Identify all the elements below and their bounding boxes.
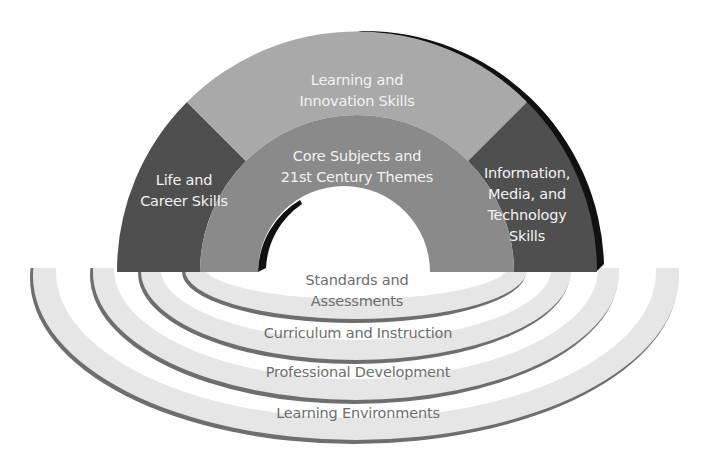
label-line: Career Skills	[128, 191, 240, 212]
label-core-subjects: Core Subjects and 21st Century Themes	[267, 146, 447, 188]
label-line: Curriculum and Instruction	[240, 323, 476, 344]
label-line: Assessments	[282, 291, 432, 312]
label-professional-development: Professional Development	[240, 362, 476, 383]
label-learning-innovation: Learning and Innovation Skills	[287, 70, 427, 112]
label-line: Media, and	[472, 184, 582, 205]
label-line: Learning and	[287, 70, 427, 91]
label-learning-environments: Learning Environments	[240, 403, 476, 424]
label-line: Skills	[472, 226, 582, 247]
label-line: Innovation Skills	[287, 91, 427, 112]
label-line: Life and	[128, 170, 240, 191]
label-line: Information,	[472, 163, 582, 184]
label-line: Learning Environments	[240, 403, 476, 424]
label-line: Professional Development	[240, 362, 476, 383]
label-line: Technology	[472, 205, 582, 226]
label-curriculum-instruction: Curriculum and Instruction	[240, 323, 476, 344]
label-line: Core Subjects and	[267, 146, 447, 167]
label-info-media-tech: Information, Media, and Technology Skill…	[472, 163, 582, 247]
label-line: 21st Century Themes	[267, 167, 447, 188]
label-line: Standards and	[282, 270, 432, 291]
label-standards-assessments: Standards and Assessments	[282, 270, 432, 312]
label-life-career: Life and Career Skills	[128, 170, 240, 212]
